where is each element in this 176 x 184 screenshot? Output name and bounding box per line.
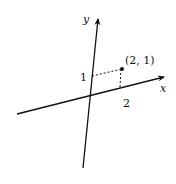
point-marker (120, 67, 124, 71)
y-axis-label: y (82, 13, 90, 26)
dashed-guide-horizontal (92, 69, 122, 76)
x-tick-label: 2 (123, 97, 130, 110)
point-label: (2, 1) (125, 54, 155, 67)
dashed-guide-vertical (120, 69, 121, 87)
x-axis-label: x (160, 82, 167, 95)
coordinate-diagram: y x 1 2 (2, 1) (0, 0, 176, 184)
y-axis (83, 19, 98, 168)
y-tick-label: 1 (80, 71, 87, 84)
